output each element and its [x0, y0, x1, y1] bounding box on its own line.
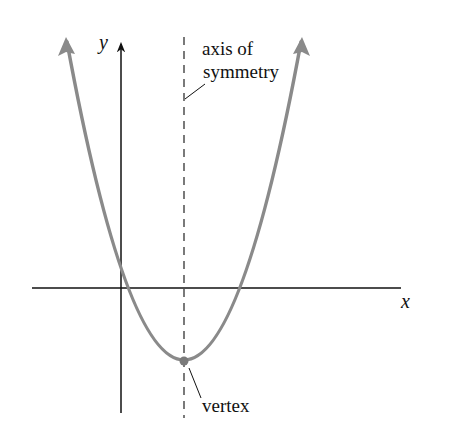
parabola-diagram: y x axis of symmetry vertex — [0, 0, 452, 432]
axis-of-symmetry-label-line1: axis of — [202, 38, 254, 59]
parabola-right-arrow-icon — [293, 37, 310, 56]
axis-of-symmetry-label-line2: symmetry — [203, 61, 279, 82]
y-axis-label: y — [97, 31, 108, 54]
axis-of-symmetry-leader — [185, 84, 205, 99]
vertex-point — [180, 357, 189, 366]
vertex-label: vertex — [202, 395, 250, 416]
parabola-left-arrow-icon — [58, 37, 75, 56]
x-axis-label: x — [400, 290, 410, 312]
parabola-curve — [67, 42, 301, 360]
vertex-leader — [189, 368, 201, 398]
